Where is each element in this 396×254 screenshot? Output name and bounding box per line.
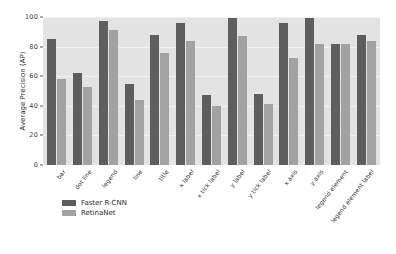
y-tick-label: 80 bbox=[29, 43, 38, 51]
bar-1[interactable] bbox=[238, 36, 247, 165]
x-tick-label: line bbox=[131, 168, 143, 181]
bar-1[interactable] bbox=[83, 87, 92, 165]
bar-group bbox=[353, 17, 379, 165]
x-tick-label: x tick label bbox=[195, 168, 221, 199]
bar-group bbox=[250, 17, 276, 165]
bar-1[interactable] bbox=[109, 30, 118, 165]
y-tick-label: 20 bbox=[29, 131, 38, 139]
y-tick-label: 40 bbox=[29, 102, 38, 110]
legend-entry-label: RetinaNet bbox=[81, 209, 116, 217]
bar-0[interactable] bbox=[279, 23, 288, 165]
bar-0[interactable] bbox=[47, 39, 56, 165]
bar-1[interactable] bbox=[367, 41, 376, 165]
bar-0[interactable] bbox=[228, 18, 237, 165]
y-tick-label: 100 bbox=[25, 13, 38, 21]
x-tick-label: bar bbox=[55, 168, 67, 180]
y-axis: Average Precision (AP) 020406080100 bbox=[0, 17, 43, 165]
bar-1[interactable] bbox=[160, 53, 169, 165]
x-tick-label: dot line bbox=[73, 168, 93, 191]
x-tick-label: y axis bbox=[308, 168, 325, 187]
bar-1[interactable] bbox=[341, 44, 350, 165]
bar-0[interactable] bbox=[176, 23, 185, 165]
bar-0[interactable] bbox=[254, 94, 263, 165]
bar-1[interactable] bbox=[135, 100, 144, 165]
legend-entry[interactable]: Faster R-CNN bbox=[62, 199, 127, 207]
bar-1[interactable] bbox=[264, 104, 273, 165]
bar-0[interactable] bbox=[357, 35, 366, 165]
bar-1[interactable] bbox=[57, 79, 66, 165]
legend-entry-label: Faster R-CNN bbox=[81, 199, 127, 207]
bar-0[interactable] bbox=[73, 73, 82, 165]
bar-group bbox=[70, 17, 96, 165]
bar-0[interactable] bbox=[150, 35, 159, 165]
bar-1[interactable] bbox=[212, 106, 221, 165]
x-tick-label: legend bbox=[100, 168, 118, 189]
bar-chart-figure: Average Precision (AP) 020406080100 bard… bbox=[0, 0, 396, 254]
bar-0[interactable] bbox=[125, 84, 134, 165]
legend-swatch-icon bbox=[62, 210, 76, 216]
bar-0[interactable] bbox=[99, 21, 108, 165]
bar-1[interactable] bbox=[186, 41, 195, 165]
bar-group bbox=[302, 17, 328, 165]
plot-area bbox=[43, 17, 380, 165]
bar-0[interactable] bbox=[331, 44, 340, 165]
y-tick-label: 0 bbox=[34, 161, 38, 169]
x-tick-label: x label bbox=[177, 168, 195, 189]
bar-group bbox=[96, 17, 122, 165]
y-axis-label: Average Precision (AP) bbox=[19, 26, 27, 156]
bar-group bbox=[121, 17, 147, 165]
y-tick-label: 60 bbox=[29, 72, 38, 80]
legend-swatch-icon bbox=[62, 200, 76, 206]
bar-group bbox=[199, 17, 225, 165]
bar-0[interactable] bbox=[305, 18, 314, 165]
x-tick-label: x axis bbox=[282, 168, 299, 187]
x-tick-label: y tick label bbox=[246, 168, 272, 199]
bar-0[interactable] bbox=[202, 95, 211, 165]
bar-group bbox=[327, 17, 353, 165]
bars-layer bbox=[43, 17, 380, 165]
bar-group bbox=[147, 17, 173, 165]
x-tick-label: y label bbox=[228, 168, 246, 189]
legend-entry[interactable]: RetinaNet bbox=[62, 209, 127, 217]
bar-group bbox=[224, 17, 250, 165]
bar-group bbox=[276, 17, 302, 165]
bar-1[interactable] bbox=[289, 58, 298, 165]
bar-1[interactable] bbox=[315, 44, 324, 165]
bar-group bbox=[173, 17, 199, 165]
bar-group bbox=[44, 17, 70, 165]
x-tick-label: title bbox=[156, 168, 169, 182]
legend: Faster R-CNNRetinaNet bbox=[62, 199, 127, 219]
